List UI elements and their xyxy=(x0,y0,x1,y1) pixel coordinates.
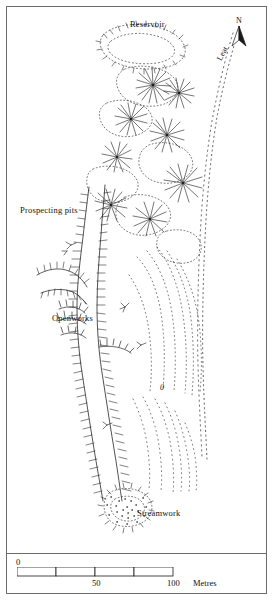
lower-stipple xyxy=(133,397,197,493)
label-zero: 0 xyxy=(160,383,164,392)
pit-starburst-g xyxy=(95,189,127,221)
label-reservoir: Reservoir xyxy=(130,19,165,29)
openwork-branch-west xyxy=(37,269,87,287)
pit-cluster-outlines xyxy=(87,66,201,263)
north-arrow-icon: N xyxy=(228,14,250,48)
pit-starburst-d xyxy=(150,118,184,152)
spoil-stipple-field xyxy=(129,247,201,395)
openwork-branch-west-hachures xyxy=(37,262,89,283)
leat-line-inner xyxy=(198,33,233,457)
pit-starburst-b xyxy=(164,78,194,108)
pit-starburst-f xyxy=(164,164,202,202)
scattered-pit-marks xyxy=(62,242,146,429)
map-canvas xyxy=(7,7,266,552)
scale-label-unit: Metres xyxy=(193,578,217,588)
pit-starburst-h xyxy=(133,202,167,236)
label-streamwork: Streamwork xyxy=(137,508,181,518)
openwork-east-hachures xyxy=(97,192,131,491)
reservoir-outline xyxy=(100,24,185,69)
scale-label-start: 0 xyxy=(16,557,20,567)
map-figure: Reservoir Prospecting pits Openworks Str… xyxy=(0,0,273,600)
label-openworks: Openworks xyxy=(52,313,93,323)
scale-bar-graphic xyxy=(17,567,257,579)
pit-starburst-e xyxy=(102,142,132,172)
leat-line xyxy=(203,29,239,459)
scale-label-end: 100 xyxy=(167,578,180,588)
openwork-west-bank xyxy=(77,187,103,501)
scale-bar: 0 50 100 Metres xyxy=(7,553,266,593)
label-prospecting-pits: Prospecting pits xyxy=(20,205,78,215)
openwork-spur-east xyxy=(99,339,134,353)
pit-starburst-a xyxy=(136,67,171,103)
north-arrow-letter: N xyxy=(236,16,242,25)
scale-label-mid: 50 xyxy=(92,578,101,588)
pit-starburst-c xyxy=(115,103,147,135)
openwork-west-hachures xyxy=(69,194,102,493)
survey-linework xyxy=(7,7,266,552)
